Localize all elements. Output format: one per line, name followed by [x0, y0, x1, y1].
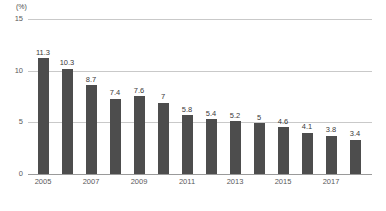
bar-value-label: 11.3	[36, 49, 50, 57]
y-axis-tick-label: 5	[19, 118, 23, 126]
bar-value-label: 7.4	[110, 89, 120, 97]
bar-value-label: 8.7	[86, 76, 96, 84]
bar-value-label: 4.6	[278, 118, 288, 126]
x-axis-baseline: 0	[28, 174, 372, 175]
bar	[206, 119, 217, 175]
bar-value-label: 4.1	[302, 123, 312, 131]
bar	[134, 96, 145, 175]
bar	[62, 69, 73, 175]
bar-item: 4.1	[302, 20, 313, 175]
y-axis-tick-label: 0	[19, 170, 23, 178]
bar-value-label: 5	[257, 114, 261, 122]
bar-value-label: 5.8	[182, 106, 192, 114]
y-axis-tick-label: 15	[15, 15, 23, 23]
plot-area: 051015 11.310.38.77.47.675.85.45.254.64.…	[28, 20, 372, 175]
bar	[38, 58, 49, 175]
x-axis-tick-label: 2013	[227, 177, 244, 186]
bar	[302, 133, 313, 175]
x-axis-tick-label: 2005	[35, 177, 52, 186]
axis-unit-label: (%)	[16, 3, 27, 11]
x-axis-tick-label: 2009	[131, 177, 148, 186]
x-axis-tick-label: 2011	[179, 177, 195, 186]
bar-chart: (%) 051015 11.310.38.77.47.675.85.45.254…	[0, 0, 386, 211]
bar-item: 8.7	[86, 20, 97, 175]
y-axis-tick-label: 10	[15, 67, 23, 75]
bar-item: 5	[254, 20, 265, 175]
bar-value-label: 3.4	[350, 130, 360, 138]
bar-item: 4.6	[278, 20, 289, 175]
bar-value-label: 7.6	[134, 87, 144, 95]
bar-value-label: 5.4	[206, 110, 216, 118]
bar	[254, 123, 265, 175]
x-axis-tick-label: 2007	[83, 177, 100, 186]
bar-item: 7.6	[134, 20, 145, 175]
bar	[182, 115, 193, 175]
bar-item: 5.4	[206, 20, 217, 175]
bar	[230, 121, 241, 175]
bar-item: 5.2	[230, 20, 241, 175]
x-axis-tick-label: 2015	[275, 177, 292, 186]
bar-value-label: 10.3	[60, 59, 75, 67]
bar-value-label: 3.8	[326, 126, 336, 134]
bar	[350, 140, 361, 175]
bar-series: 11.310.38.77.47.675.85.45.254.64.13.83.4	[28, 20, 372, 175]
x-axis-labels: 2005200720092011201320152017	[28, 177, 372, 191]
bar-item: 10.3	[62, 20, 73, 175]
bar	[278, 127, 289, 175]
bar-value-label: 7	[161, 93, 165, 101]
bar-item: 5.8	[182, 20, 193, 175]
bar	[326, 136, 337, 175]
bar-item: 3.8	[326, 20, 337, 175]
bar	[110, 99, 121, 175]
bar-item: 7.4	[110, 20, 121, 175]
bar-item: 7	[158, 20, 169, 175]
bar	[86, 85, 97, 175]
bar-item: 11.3	[38, 20, 49, 175]
bar-value-label: 5.2	[230, 112, 240, 120]
x-axis-tick-label: 2017	[323, 177, 340, 186]
bar	[158, 103, 169, 175]
bar-item: 3.4	[350, 20, 361, 175]
